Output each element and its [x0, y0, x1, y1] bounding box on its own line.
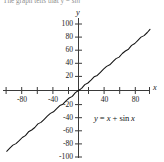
y-tick-label-100: 100 [46, 20, 73, 28]
y-tick-label-20: 20 [46, 72, 73, 80]
equation-rhs-x: x [107, 113, 111, 123]
y-tick-label-neg80: -80 [46, 140, 73, 148]
y-tick-label-40: 40 [46, 59, 73, 67]
x-axis-label: x [153, 84, 157, 92]
x-tick-label-80: 80 [127, 96, 144, 104]
equation-arg: x [131, 113, 135, 123]
y-tick-label-neg40: -40 [46, 114, 73, 122]
x-tick-label-neg80: -80 [12, 96, 32, 104]
math-figure: The graph tells that y = sin [0, 0, 164, 162]
y-axis-label: y [76, 9, 80, 17]
equation-label: y=x+sinx [94, 113, 135, 123]
equation-plus: + [113, 113, 118, 123]
y-tick-label-neg60: -60 [46, 127, 73, 135]
y-tick-label-60: 60 [46, 46, 73, 54]
y-tick-label-80: 80 [46, 33, 73, 41]
x-tick-label-neg40: -40 [43, 96, 63, 104]
equation-equals: = [100, 113, 105, 123]
x-tick-label-40: 40 [96, 96, 113, 104]
plot-canvas [0, 0, 164, 162]
y-tick-label-neg100: -100 [42, 153, 73, 161]
equation-sin: sin [119, 113, 129, 123]
equation-lhs: y [94, 113, 98, 123]
